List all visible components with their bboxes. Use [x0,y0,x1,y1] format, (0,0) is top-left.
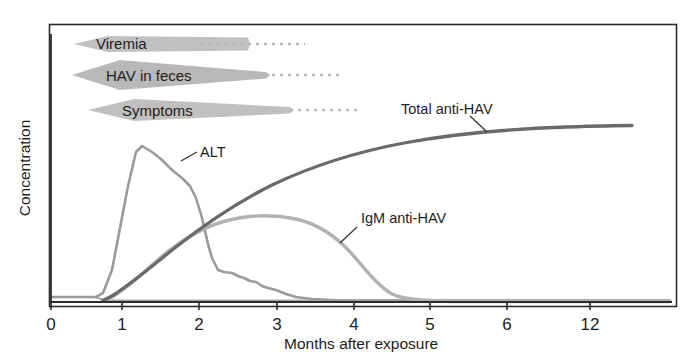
hepatitis-serology-chart: Viremia HAV in feces Symptoms [0,0,699,356]
x-tick-label-3: 3 [272,315,281,334]
series-label-igm-anti-hav: IgM anti-HAV [361,210,446,226]
x-axis-title: Months after exposure [284,335,438,352]
figure-container: Viremia HAV in feces Symptoms [0,0,699,356]
band-label-viremia: Viremia [96,35,147,52]
y-axis-title: Concentration [16,120,33,217]
band-label-symptoms: Symptoms [122,102,193,119]
x-tick-label-6: 6 [502,315,511,334]
x-tick-label-5: 5 [425,315,434,334]
series-label-alt: ALT [200,144,226,160]
x-tick-label-4: 4 [349,315,358,334]
x-tick-label-2: 2 [194,315,203,334]
band-label-hav-in-feces: HAV in feces [106,67,192,84]
x-tick-label-1: 1 [117,315,126,334]
x-tick-label-0: 0 [46,315,55,334]
x-tick-label-12: 12 [581,315,600,334]
series-label-total-anti-hav: Total anti-HAV [401,101,493,117]
